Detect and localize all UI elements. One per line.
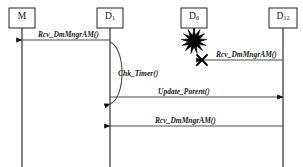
self-call-label-self1: Chk_Timer() — [118, 69, 158, 78]
message-label-msg1: Rcv_DmMngrAM() — [38, 30, 99, 39]
participant-boxes-group — [9, 8, 297, 28]
message-label-msg4: Rcv_DmMngrAM() — [155, 116, 216, 125]
event-markers-group — [181, 28, 207, 65]
message-label-msg3: Update_Parent() — [158, 87, 210, 96]
participant-label-d12: D12 — [269, 11, 297, 21]
diagram-canvas — [0, 0, 303, 167]
message-label-msg2: Rcv_DmMngrAM() — [216, 50, 277, 59]
sequence-diagram: MD1D6D12 Chk_Timer()Rcv_DmMngrAM()Rcv_Dm… — [0, 0, 303, 167]
explosion-icon — [181, 28, 207, 54]
participant-label-d6: D6 — [181, 11, 207, 21]
participant-label-m: M — [9, 11, 35, 21]
participant-label-d1: D1 — [97, 11, 123, 21]
